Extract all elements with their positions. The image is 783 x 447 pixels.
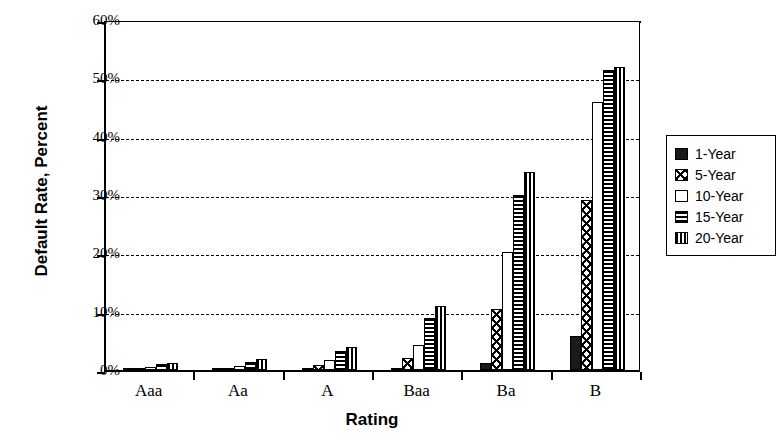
bar [167,363,178,370]
x-tick-mark [640,372,642,380]
bar [123,368,134,370]
legend-swatch-icon [675,211,688,223]
y-axis-title: Default Rate, Percent [32,31,52,351]
y-tick-label: 50% [60,71,120,86]
x-category-label: B [535,381,655,401]
legend: 1-Year5-Year10-Year15-Year20-Year [666,135,776,256]
bar-group [374,22,463,370]
y-tick-label: 40% [60,130,120,145]
bar-groups [106,22,639,370]
legend-item[interactable]: 10-Year [675,185,769,206]
bar [391,368,402,370]
bar [346,347,357,370]
bar [324,360,335,371]
bar [524,172,535,370]
y-tick-label: 0% [60,363,120,378]
bar [581,200,592,370]
x-tick-mark [461,372,463,380]
legend-item-label: 20-Year [695,230,744,246]
x-tick-mark [193,372,195,380]
y-tick-label: 30% [60,188,120,203]
bar [603,70,614,370]
y-tick-label: 20% [60,246,120,261]
bar [313,365,324,370]
bar [513,195,524,370]
legend-item[interactable]: 15-Year [675,206,769,227]
bar-group [553,22,642,370]
bar [245,362,256,370]
x-tick-mark [551,372,553,380]
bar [145,367,156,371]
bar [570,336,581,370]
legend-item[interactable]: 20-Year [675,227,769,248]
bar-group [195,22,284,370]
bar [413,345,424,370]
legend-swatch-icon [675,169,688,181]
bar [491,309,502,370]
bar [256,359,267,370]
bar [502,252,513,370]
bar [234,366,245,370]
bar [223,368,234,370]
bar [134,368,145,370]
bar-chart: Default Rate, Percent 0%10%20%30%40%50%6… [0,0,783,447]
y-tick-label: 60% [60,13,120,28]
legend-swatch-icon [675,148,688,160]
y-tick-label: 10% [60,305,120,320]
bar [424,318,435,371]
bar [335,351,346,370]
x-axis-title: Rating [104,410,640,430]
legend-item-label: 1-Year [695,146,736,162]
legend-swatch-icon [675,190,688,202]
x-tick-mark [283,372,285,380]
legend-item-label: 5-Year [695,167,736,183]
legend-item[interactable]: 5-Year [675,164,769,185]
x-tick-mark [372,372,374,380]
bar [435,306,446,370]
legend-swatch-icon [675,232,688,244]
bar [480,363,491,370]
plot-area [104,22,640,372]
bar-group [463,22,552,370]
bar [614,67,625,370]
bar-group [285,22,374,370]
bar [302,368,313,370]
legend-item-label: 15-Year [695,209,744,225]
legend-item-label: 10-Year [695,188,744,204]
legend-item[interactable]: 1-Year [675,143,769,164]
bar [212,368,223,370]
bar [592,102,603,370]
bar [402,358,413,370]
bar [156,364,167,370]
